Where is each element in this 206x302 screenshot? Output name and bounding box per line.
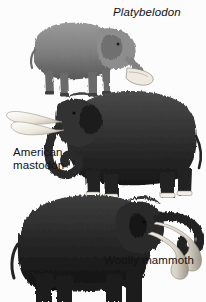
label-woolly-mammoth: Woolly mammoth	[104, 254, 194, 267]
label-platybelodon: Platybelodon	[113, 6, 181, 19]
label-american-mastodon: American mastodon	[13, 146, 64, 172]
proboscidean-comparison-figure: Platybelodon American mastodon Woolly ma…	[0, 0, 206, 302]
